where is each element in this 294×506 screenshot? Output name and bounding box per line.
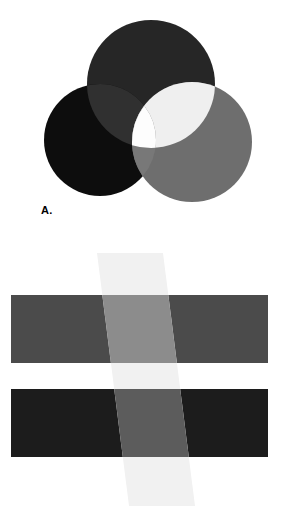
figure-root: A. bbox=[0, 0, 294, 506]
panel-b: B. bbox=[0, 253, 294, 506]
panel-a: A. bbox=[0, 0, 294, 253]
panel-a-label: A. bbox=[41, 205, 52, 216]
bars-with-diagonal-band-diagram bbox=[0, 253, 294, 506]
